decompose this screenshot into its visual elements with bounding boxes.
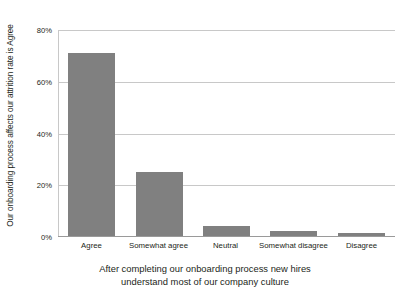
x-axis-title-line: understand most of our company culture (40, 276, 370, 289)
x-axis-tick-label: Neutral (192, 241, 259, 255)
x-axis-tick-label: Disagree (328, 241, 395, 255)
bar-slot (328, 30, 395, 236)
y-axis-tick-labels: 0%20%40%60%80% (22, 30, 56, 237)
bar-slot (193, 30, 260, 236)
bar-chart: Our onboarding process affects our attri… (0, 0, 406, 299)
x-axis-tick-label: Somewhat disagree (259, 241, 328, 255)
x-axis-tick-label: Agree (58, 241, 125, 255)
bar-somewhat-disagree[interactable] (270, 231, 317, 236)
bar-slot (125, 30, 192, 236)
y-axis-tick-label: 60% (37, 77, 52, 86)
y-axis-tick-label: 40% (37, 129, 52, 138)
bar-neutral[interactable] (203, 226, 250, 236)
y-axis-title-text: Our onboarding process affects our attri… (6, 24, 15, 227)
bar-agree[interactable] (68, 53, 115, 236)
x-axis-tick-label: Somewhat agree (125, 241, 192, 255)
x-axis-title-line: After completing our onboarding process … (40, 263, 370, 276)
y-axis-title: Our onboarding process affects our attri… (0, 0, 20, 250)
x-axis-title: After completing our onboarding process … (40, 263, 370, 288)
y-axis-tick-label: 80% (37, 26, 52, 35)
bar-slot (58, 30, 125, 236)
x-axis-tick-labels: AgreeSomewhat agreeNeutralSomewhat disag… (58, 241, 395, 255)
y-axis-tick-label: 20% (37, 181, 52, 190)
bar-slot (260, 30, 327, 236)
y-axis-tick-label: 0% (41, 233, 52, 242)
bar-somewhat-agree[interactable] (136, 172, 183, 236)
plot-area (58, 30, 395, 237)
bars-group (58, 30, 395, 236)
bar-disagree[interactable] (338, 233, 385, 236)
x-axis-line (58, 236, 395, 237)
